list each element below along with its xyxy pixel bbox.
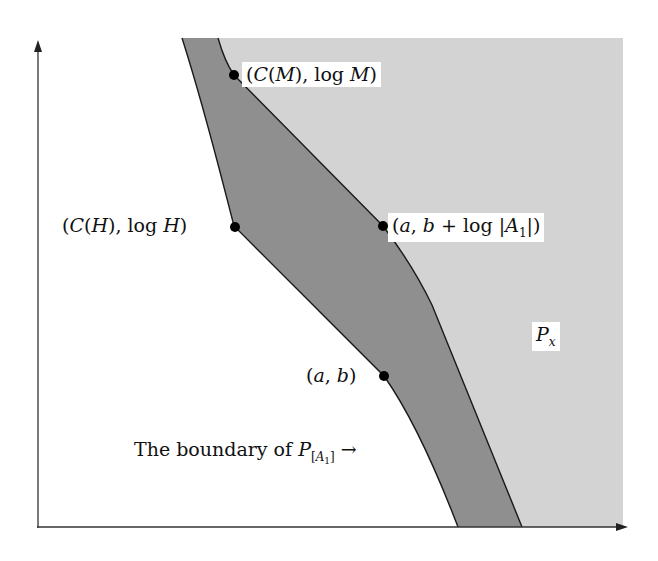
label-cm-logm: (C(M), log M)	[242, 62, 381, 87]
y-axis-arrow-icon	[34, 40, 42, 52]
diagram: (C(M), log M) (C(H), log H) (a, b + log …	[0, 0, 658, 561]
point-ch-logh	[230, 222, 240, 232]
point-a-b	[379, 371, 389, 381]
label-a-b-loga1: (a, b + log |A1|)	[388, 213, 544, 242]
label-a-b: (a, b)	[306, 366, 356, 385]
boundary-arrow-icon: →	[341, 438, 357, 460]
label-boundary-pa1: The boundary of P[A1] →	[134, 440, 357, 466]
point-cm-logm	[229, 70, 239, 80]
label-ch-logh: (C(H), log H)	[62, 216, 187, 235]
point-a-b-loga1	[378, 221, 388, 231]
label-px: Px	[532, 322, 560, 351]
